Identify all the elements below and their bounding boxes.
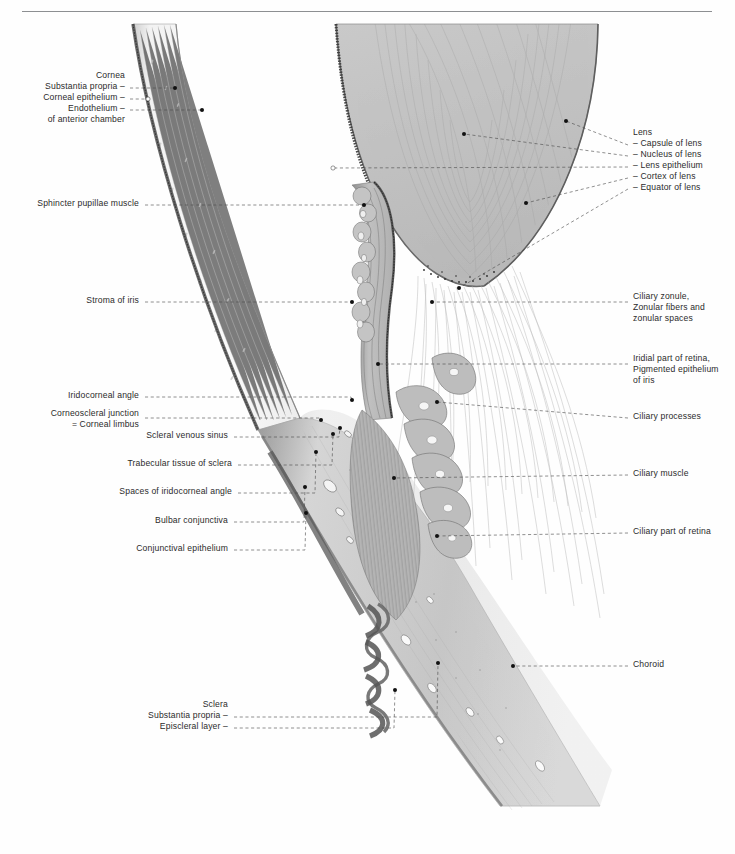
marker-bulbar-conjunctiva [303,485,307,489]
label-trabecular-tissue-of-sclera: Trabecular tissue of sclera [127,458,232,469]
marker-cortex-of-lens [524,201,528,205]
label-ciliary-muscle: Ciliary muscle [633,468,689,479]
marker-ciliary-part-of-retina [435,534,439,538]
label-choroid: Choroid [633,659,664,670]
label-sclera: Sclera [203,699,228,710]
label-lens-epithelium: – Lens epithelium [633,160,703,171]
label-endothelium: Endothelium – [68,103,125,114]
label-iridocorneal-angle: Iridocorneal angle [68,390,139,401]
label-ciliary-part-of-retina: Ciliary part of retina [633,526,711,537]
anatomical-plate: CorneaSubstantia propria –Corneal epithe… [0,0,735,854]
marker-spaces-of-iridocorneal-angle [314,450,318,454]
label-nucleus-of-lens: – Nucleus of lens [633,149,701,160]
marker-episcleral-layer [393,688,397,692]
label-pigmented-epithelium: Pigmented epithelium [633,364,719,375]
label-substantia-propria: Substantia propria – [45,81,125,92]
marker-ciliary-processes [435,400,439,404]
label-cornea: Cornea [96,70,125,81]
marker-corneoscleral-junction [319,418,323,422]
marker-corneal-epithelium [146,97,150,101]
marker-scleral-venous-sinus [338,426,342,430]
label-corneoscleral-junction: Corneoscleral junction [51,408,139,419]
marker-choroid [511,664,515,668]
label-ciliary-zonule: Ciliary zonule, [633,291,689,302]
label-scleral-venous-sinus: Scleral venous sinus [146,430,228,441]
marker-sclera-substantia-propria [436,661,440,665]
label-spaces-of-iridocorneal-angle: Spaces of iridocorneal angle [119,486,232,497]
marker-substantia-propria [173,86,177,90]
label-corneal-limbus: = Corneal limbus [72,419,139,430]
label-bulbar-conjunctiva: Bulbar conjunctiva [155,515,228,526]
marker-nucleus-of-lens [462,132,466,136]
marker-sphincter-pupillae-muscle [362,203,366,207]
iris-structure [352,182,394,420]
cornea-structure [133,24,300,430]
label-episcleral-layer: Episcleral layer – [160,721,228,732]
marker-ciliary-muscle [392,476,396,480]
marker-lens-epithelium [331,166,335,170]
marker-endothelium [200,108,204,112]
label-of-anterior-chamber: of anterior chamber [48,114,125,125]
leader-conjunctival-epithelium [234,513,306,550]
marker-iridial-part-of-retina [376,362,380,366]
label-conjunctival-epithelium: Conjunctival epithelium [136,543,228,554]
label-zonular-spaces: zonular spaces [633,313,693,324]
label-equator-of-lens: – Equator of lens [633,182,701,193]
label-cortex-of-lens: – Cortex of lens [633,171,696,182]
marker-stroma-of-iris [350,300,354,304]
marker-iridocorneal-angle [350,398,354,402]
label-capsule-of-lens: – Capsule of lens [633,138,702,149]
marker-equator-of-lens [457,286,461,290]
label-sphincter-pupillae-muscle: Sphincter pupillae muscle [37,198,139,209]
label-stroma-of-iris: Stroma of iris [86,295,139,306]
marker-ciliary-zonule [430,300,434,304]
label-sclera-substantia-propria: Substantia propria – [148,710,228,721]
label-ciliary-processes: Ciliary processes [633,411,701,422]
marker-trabecular-tissue-of-sclera [331,432,335,436]
label-of-iris: of iris [633,375,655,386]
label-lens: Lens [633,127,652,138]
label-iridial-part-of-retina: Iridial part of retina, [633,353,710,364]
marker-conjunctival-epithelium [304,511,308,515]
label-zonular-fibers: Zonular fibers and [633,302,705,313]
marker-capsule-of-lens [564,119,568,123]
label-corneal-epithelium: Corneal epithelium – [43,92,125,103]
